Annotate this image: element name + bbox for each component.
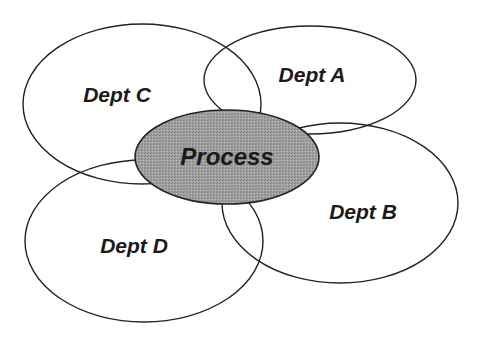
process-diagram: Process Dept ADept BDept CDept D <box>0 0 478 342</box>
dept-c-label: Dept C <box>83 83 152 106</box>
dept-b-label: Dept B <box>329 200 397 223</box>
process-node: Process <box>135 110 319 204</box>
process-label: Process <box>180 143 273 170</box>
diagram-canvas: Process Dept ADept BDept CDept D <box>0 0 478 342</box>
dept-a-label: Dept A <box>279 63 346 86</box>
dept-d-label: Dept D <box>100 234 168 257</box>
